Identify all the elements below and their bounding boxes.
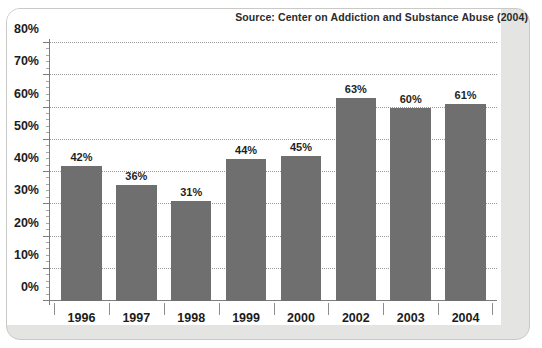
bar-wrapper: 36%	[109, 185, 164, 301]
bar[interactable]	[226, 159, 267, 301]
bar[interactable]	[171, 201, 212, 301]
y-axis-tick-label: 30%	[14, 183, 39, 197]
x-axis-tick-label: 1999	[219, 307, 274, 333]
x-axis-tick-label: 2004	[438, 307, 493, 333]
y-axis-tick-label: 20%	[14, 216, 39, 230]
bar-slot: 42%	[54, 43, 109, 301]
x-axis-tick-label: 2002	[328, 307, 383, 333]
x-axis-labels: 19961997199819992000200220032004	[50, 307, 497, 333]
bar-wrapper: 44%	[219, 159, 274, 301]
y-axis-tick-label: 40%	[14, 151, 39, 165]
bar-value-label: 61%	[455, 89, 477, 101]
bar-slot: 60%	[383, 43, 438, 301]
x-tick-separator	[438, 303, 439, 315]
plot-area: 0%10%20%30%40%50%60%70%80% 42%36%31%44%4…	[50, 43, 497, 301]
bar[interactable]	[281, 156, 322, 301]
x-tick-separator	[164, 303, 165, 315]
bar[interactable]	[390, 108, 431, 302]
x-tick-separator	[109, 303, 110, 315]
y-axis-tick-label: 80%	[14, 22, 39, 36]
y-axis-tick-label: 50%	[14, 119, 39, 133]
x-tick-separator	[219, 303, 220, 315]
bar-value-label: 63%	[345, 83, 367, 95]
bar-wrapper: 42%	[54, 166, 109, 301]
y-axis-tick-label: 10%	[14, 248, 39, 262]
bar-wrapper: 60%	[383, 108, 438, 302]
x-axis-tick-label: 2003	[383, 307, 438, 333]
bar-value-label: 42%	[70, 151, 92, 163]
bar-series: 42%36%31%44%45%63%60%61%	[50, 43, 497, 301]
bar-slot: 36%	[109, 43, 164, 301]
bar-value-label: 60%	[400, 93, 422, 105]
bar-slot: 63%	[328, 43, 383, 301]
x-tick-separator	[274, 303, 275, 315]
x-tick-separator	[492, 303, 493, 315]
x-tick-separator	[383, 303, 384, 315]
bar-value-label: 36%	[125, 170, 147, 182]
chart-figure: Source: Center on Addiction and Substanc…	[0, 0, 542, 348]
bar-wrapper: 31%	[164, 201, 219, 301]
bar-slot: 61%	[438, 43, 493, 301]
x-axis-tick-label: 1996	[54, 307, 109, 333]
bar[interactable]	[61, 166, 102, 301]
bar-value-label: 45%	[290, 141, 312, 153]
x-axis-tick-label: 1998	[164, 307, 219, 333]
x-tick-separator	[328, 303, 329, 315]
x-tick-separator	[54, 303, 55, 315]
bar-wrapper: 63%	[328, 98, 383, 301]
bar[interactable]	[336, 98, 377, 301]
bar-wrapper: 45%	[274, 156, 329, 301]
bar-wrapper: 61%	[438, 104, 493, 301]
x-axis-tick-label: 2000	[274, 307, 329, 333]
bar-slot: 31%	[164, 43, 219, 301]
bar-slot: 44%	[219, 43, 274, 301]
bar-value-label: 31%	[180, 186, 202, 198]
y-axis-tick-label: 70%	[14, 54, 39, 68]
source-note: Source: Center on Addiction and Substanc…	[235, 11, 528, 23]
bar[interactable]	[116, 185, 157, 301]
bar[interactable]	[445, 104, 486, 301]
y-axis-tick-label: 60%	[14, 87, 39, 101]
y-axis-tick-label: 0%	[21, 280, 39, 294]
bar-value-label: 44%	[235, 144, 257, 156]
x-axis-tick-label: 1997	[109, 307, 164, 333]
bar-slot: 45%	[274, 43, 329, 301]
